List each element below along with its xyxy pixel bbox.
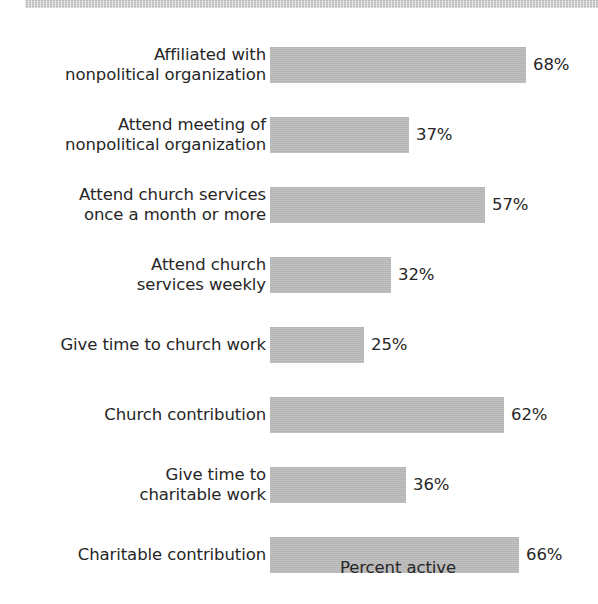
value-label: 66%	[526, 545, 562, 565]
bar-row: Attend church services weekly 32%	[0, 257, 598, 293]
category-label: Church contribution	[16, 405, 266, 425]
bar	[270, 257, 391, 293]
value-label: 62%	[511, 405, 547, 425]
bar-row: Church contribution 62%	[0, 397, 598, 433]
bar-row: Attend meeting of nonpolitical organizat…	[0, 117, 598, 153]
bar	[270, 117, 409, 153]
bar-row: Attend church services once a month or m…	[0, 187, 598, 223]
bar-row: Give time to charitable work 36%	[0, 467, 598, 503]
value-label: 32%	[398, 265, 434, 285]
bar-row: Affiliated with nonpolitical organizatio…	[0, 47, 598, 83]
x-axis-label: Percent active	[270, 558, 526, 578]
value-label: 68%	[533, 55, 569, 75]
category-label: Affiliated with nonpolitical organizatio…	[16, 45, 266, 85]
bar	[270, 467, 406, 503]
decorative-top-band	[25, 0, 598, 8]
value-label: 57%	[492, 195, 528, 215]
category-label: Attend meeting of nonpolitical organizat…	[16, 115, 266, 155]
category-label: Give time to church work	[16, 335, 266, 355]
bar-chart: Affiliated with nonpolitical organizatio…	[0, 0, 598, 604]
bar	[270, 47, 526, 83]
value-label: 36%	[413, 475, 449, 495]
bar-row: Give time to church work 25%	[0, 327, 598, 363]
category-label: Charitable contribution	[16, 545, 266, 565]
bar	[270, 397, 504, 433]
value-label: 25%	[371, 335, 407, 355]
bar	[270, 187, 485, 223]
category-label: Give time to charitable work	[16, 465, 266, 505]
value-label: 37%	[416, 125, 452, 145]
bar	[270, 327, 364, 363]
category-label: Attend church services weekly	[16, 255, 266, 295]
category-label: Attend church services once a month or m…	[16, 185, 266, 225]
